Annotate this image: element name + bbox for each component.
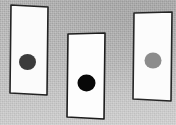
cards-layer xyxy=(0,0,176,125)
card-right xyxy=(0,0,176,125)
dot-right xyxy=(145,53,162,69)
image-canvas xyxy=(0,0,176,125)
card-right-graphic xyxy=(0,0,176,125)
